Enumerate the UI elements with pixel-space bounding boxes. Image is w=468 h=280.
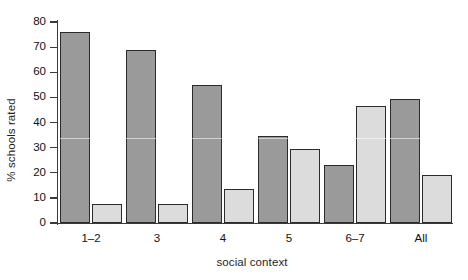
y-tick-70 [50,47,57,48]
bar [126,50,156,223]
bar [224,189,254,223]
bar [192,85,222,223]
x-tick-label-3: 5 [256,233,322,245]
y-axis-title: % schools rated [0,0,22,280]
y-tick-10 [50,197,57,198]
bar [60,32,90,223]
y-tick-label-80: 80 [20,16,46,28]
y-tick-label-30: 30 [20,142,46,154]
bar [290,149,320,223]
y-tick-label-20: 20 [20,167,46,179]
y-tick-40 [50,122,57,123]
y-tick-30 [50,147,57,148]
y-tick-50 [50,97,57,98]
y-tick-label-10: 10 [20,192,46,204]
bar [324,165,354,223]
x-axis-title: social context [52,256,452,268]
bar [258,136,288,223]
y-tick-label-60: 60 [20,66,46,78]
y-tick-60 [50,72,57,73]
y-tick-label-0: 0 [20,217,46,229]
x-axis-line [57,223,453,224]
y-tick-20 [50,172,57,173]
bar [158,204,188,223]
x-tick-label-4: 6–7 [322,233,388,245]
y-tick-label-50: 50 [20,91,46,103]
y-tick-label-70: 70 [20,41,46,53]
x-tick-label-5: All [388,233,454,245]
bar [92,204,122,223]
bar [422,175,452,223]
x-tick-label-1: 3 [124,233,190,245]
y-tick-80 [50,21,57,22]
x-tick-label-0: 1–2 [58,233,124,245]
plot-area [58,22,454,223]
bar [356,106,386,223]
bar [390,99,420,223]
x-tick-label-2: 4 [190,233,256,245]
y-tick-label-40: 40 [20,117,46,129]
bar-chart-figure: % schools rated social context 010203040… [0,0,468,280]
y-tick-0 [50,222,57,223]
